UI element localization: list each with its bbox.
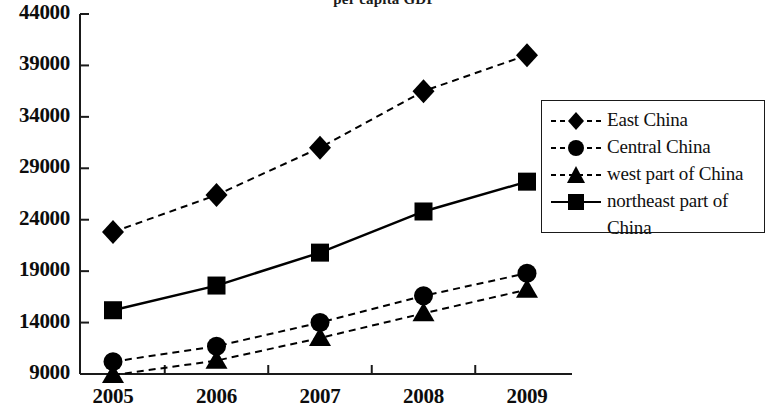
- x-axis-tick-label: 2006: [162, 384, 272, 409]
- x-axis-tick-label: 2007: [265, 384, 375, 409]
- y-axis-tick-label: 9000: [0, 360, 70, 385]
- legend-item-central-china: Central China: [542, 134, 764, 161]
- chart-legend: East China Central China west part of Ch…: [541, 100, 765, 233]
- legend-label-east-china: East China: [607, 107, 688, 133]
- series-markers: [102, 43, 538, 383]
- y-axis-tick-label: 24000: [0, 206, 70, 231]
- x-axis-tick-label: 2009: [472, 384, 582, 409]
- x-axis-tick-label: 2005: [58, 384, 168, 409]
- legend-item-northeast-part-of-china: northeast part of: [542, 188, 764, 215]
- y-axis-tick-label: 14000: [0, 309, 70, 334]
- legend-label-west-part-of-china: west part of China: [607, 161, 743, 187]
- legend-sample-circle-dashed: [549, 134, 607, 161]
- legend-label-northeast-part-of-china-line2: China: [542, 215, 764, 241]
- y-axis-tick-label: 44000: [0, 0, 70, 25]
- legend-label-central-china: Central China: [607, 134, 710, 160]
- chart-figure: per capita GDP 9000140001900024000290003…: [0, 0, 769, 417]
- y-axis-tick-label: 29000: [0, 154, 70, 179]
- legend-item-west-part-of-china: west part of China: [542, 161, 764, 188]
- x-axis-tick-label: 2008: [369, 384, 479, 409]
- y-axis-tick-label: 34000: [0, 103, 70, 128]
- legend-sample-diamond-dashed: [549, 107, 607, 134]
- legend-sample-triangle-dashed: [549, 161, 607, 188]
- legend-sample-square-solid: [549, 188, 607, 215]
- legend-item-east-china: East China: [542, 107, 764, 134]
- y-axis-tick-label: 19000: [0, 257, 70, 282]
- legend-label-northeast-part-of-china: northeast part of: [607, 188, 728, 214]
- y-axis-tick-label: 39000: [0, 51, 70, 76]
